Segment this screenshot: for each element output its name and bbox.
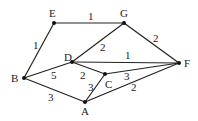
- edge-B-A: [24, 78, 85, 102]
- graph-canvas: 11221523323EGDBCAF: [0, 0, 198, 121]
- node-label: F: [184, 57, 190, 69]
- node-F: [177, 61, 181, 65]
- edge-weight-label: 1: [125, 49, 131, 61]
- edge-weight-label: 2: [100, 41, 106, 53]
- edge-weight-label: 2: [131, 81, 137, 93]
- edge-weight-label: 3: [124, 70, 130, 82]
- edge-weight-label: 2: [153, 32, 159, 44]
- edge-weight-label: 1: [88, 10, 94, 22]
- weighted-graph-diagram: 11221523323EGDBCAF: [0, 0, 198, 121]
- edge-weight-label: 2: [80, 69, 86, 81]
- edge-G-D: [72, 23, 124, 62]
- node-label: D: [64, 51, 72, 63]
- edge-D-C: [72, 62, 105, 74]
- edge-G-F: [124, 23, 179, 63]
- node-label: B: [11, 72, 18, 84]
- node-C: [103, 72, 107, 76]
- node-B: [22, 76, 26, 80]
- node-E: [52, 21, 56, 25]
- edge-weight-label: 3: [88, 81, 94, 93]
- node-label: E: [49, 7, 56, 19]
- edge-weight-label: 3: [48, 91, 54, 103]
- node-label: G: [120, 7, 128, 19]
- node-label: A: [81, 105, 89, 117]
- edge-weight-label: 5: [51, 69, 57, 81]
- edge-weight-label: 1: [33, 39, 39, 51]
- node-A: [83, 100, 87, 104]
- edge-D-F: [72, 62, 179, 63]
- node-label: C: [105, 78, 112, 90]
- edge-C-F: [105, 63, 179, 74]
- node-G: [122, 21, 126, 25]
